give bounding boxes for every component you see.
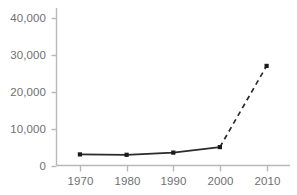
data-line-solid [80,147,220,155]
data-point-marker [125,153,129,157]
y-axis-tick-label: 40,000 [10,13,46,25]
data-point-marker [171,151,175,155]
y-axis-ticks [52,19,57,167]
data-line-dashed-projection [220,66,267,147]
y-axis-tick-label: 0 [40,161,47,173]
x-axis-ticks [81,166,268,172]
line-chart: 010,00020,00030,00040,000 19701980199020… [0,0,296,195]
data-point-markers [78,64,269,157]
data-point-marker [265,64,269,68]
y-axis-tick-label: 20,000 [10,87,46,99]
y-axis-tick-label: 10,000 [10,124,46,136]
data-point-marker [218,145,222,149]
x-axis-tick-label: 2010 [238,176,297,188]
data-point-marker [78,152,82,156]
y-axis-tick-label: 30,000 [10,50,46,62]
